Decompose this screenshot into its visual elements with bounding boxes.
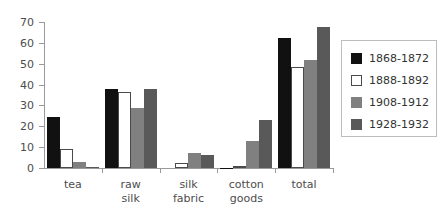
y-axis-tick-label: 40 [0,79,34,90]
y-axis-tick [39,168,44,169]
bar[interactable] [291,67,304,168]
legend-item[interactable]: 1928-1932 [351,114,436,135]
bar[interactable] [105,89,118,168]
x-axis-tick [217,168,218,173]
y-axis-tick-label: 0 [0,163,34,174]
bar[interactable] [188,153,201,168]
legend-swatch-icon [351,97,362,108]
x-axis-tick [160,168,161,173]
x-axis-line [44,168,334,169]
x-axis-category-label: tea [44,178,102,192]
bar[interactable] [259,120,272,168]
bar[interactable] [73,162,86,168]
legend-item-label: 1888-1892 [369,75,429,86]
y-axis-tick-label: 60 [0,37,34,48]
legend-item-label: 1908-1912 [369,97,429,108]
x-axis-category-label: raw silk [102,178,160,206]
y-axis-tick-label: 10 [0,142,34,153]
x-axis-category-label: silk fabric [160,178,218,206]
legend-item[interactable]: 1908-1912 [351,92,436,113]
legend-swatch-icon [351,119,362,130]
x-axis-tick [102,168,103,173]
bar[interactable] [144,89,157,168]
bar[interactable] [317,27,330,168]
chart-legend: 1868-1872 1888-1892 1908-1912 1928-1932 [341,40,437,137]
bar[interactable] [86,167,99,168]
bar[interactable] [278,38,291,168]
x-axis-category-label: total [275,178,333,192]
bar-group [102,22,160,168]
bar[interactable] [201,155,214,168]
bar[interactable] [118,92,131,168]
legend-item[interactable]: 1888-1892 [351,70,436,91]
legend-item-label: 1928-1932 [369,119,429,130]
x-axis-tick [333,168,334,173]
x-axis-tick [275,168,276,173]
bar[interactable] [175,163,188,168]
bar-group [44,22,102,168]
legend-swatch-icon [351,75,362,86]
bar-group [275,22,333,168]
bar[interactable] [131,108,144,168]
plot-area [44,22,333,168]
bar[interactable] [233,166,246,168]
legend-item[interactable]: 1868-1872 [351,48,436,69]
x-axis-category-label: cotton goods [217,178,275,206]
y-axis-tick-label: 70 [0,17,34,28]
bar-chart: 010203040506070 tearaw silksilk fabricco… [0,0,443,214]
bar[interactable] [60,149,73,168]
y-axis-tick-label: 20 [0,121,34,132]
bar[interactable] [246,141,259,168]
bar-group [160,22,218,168]
y-axis-tick-label: 30 [0,100,34,111]
legend-item-label: 1868-1872 [369,53,429,64]
bar[interactable] [47,117,60,168]
y-axis-tick-label: 50 [0,58,34,69]
legend-swatch-icon [351,53,362,64]
bar-group [217,22,275,168]
bar[interactable] [304,60,317,168]
